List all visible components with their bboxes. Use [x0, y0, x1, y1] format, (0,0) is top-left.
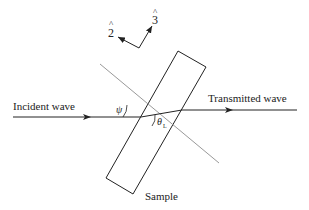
theta-subscript: L [163, 123, 167, 129]
theta-arc [152, 115, 155, 126]
incident-wave-label: Incident wave [13, 100, 75, 112]
theta-label: θ [157, 116, 162, 127]
sample-slab [106, 51, 206, 194]
diagram-canvas: ^ 2 ^ 3 ψ θ L Incident wave Transmitted … [0, 0, 309, 210]
psi-label: ψ [116, 104, 123, 115]
transmitted-wave-label: Transmitted wave [208, 92, 287, 104]
axes-icon [118, 26, 152, 48]
axis-3-label: 3 [152, 13, 158, 27]
axis-2-label: 2 [108, 26, 114, 40]
sample-label: Sample [145, 190, 178, 202]
psi-arc [123, 105, 127, 117]
